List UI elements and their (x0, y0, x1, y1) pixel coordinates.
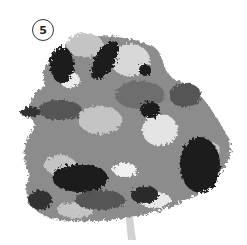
tree-canopy (20, 33, 231, 221)
tree-illustration (0, 0, 247, 245)
